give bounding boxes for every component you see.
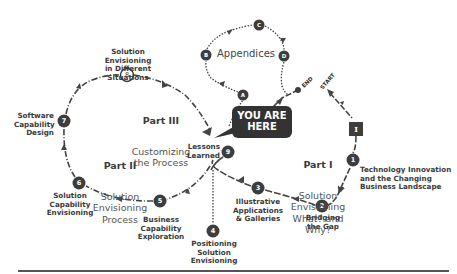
you-are-here-label: YOU ARE HERE [232, 110, 292, 132]
start-path [327, 89, 352, 118]
path-6-7 [64, 128, 75, 177]
svg-text:9: 9 [226, 148, 231, 156]
caption-node-6: Solution Capability Envisioning [46, 192, 94, 218]
svg-text:3: 3 [256, 184, 261, 192]
path-3-9 [212, 160, 251, 186]
node-3[interactable]: 3 [252, 182, 265, 195]
caption-node-1: Technology Innovation and the Changing B… [360, 166, 451, 192]
node-I[interactable]: I [349, 122, 363, 136]
caption-node-8: Solution Envisioning in Different Situat… [88, 48, 168, 83]
svg-text:5: 5 [158, 197, 163, 205]
svg-text:B: B [204, 52, 208, 58]
bottom-divider [18, 270, 449, 272]
svg-text:7: 7 [62, 117, 67, 125]
caption-node-9: Lessons Learned [184, 143, 220, 160]
node-7[interactable]: 7 [58, 115, 71, 128]
book-roadmap-diagram: I 1 2 3 4 5 6 7 8 9 A B C D [0, 0, 457, 274]
svg-text:C: C [257, 22, 261, 28]
node-A[interactable]: A [238, 90, 249, 101]
svg-text:I: I [354, 124, 358, 134]
node-D[interactable]: D [279, 51, 290, 62]
node-C[interactable]: C [254, 20, 265, 31]
caption-node-7: Software Capability Design [14, 112, 54, 138]
part-3-title: Part III [130, 115, 192, 126]
end-marker [295, 87, 301, 93]
part-1-block: Part I Solution Envisioning What? and Wh… [282, 140, 354, 255]
node-B[interactable]: B [201, 50, 212, 61]
node-6[interactable]: 6 [73, 177, 86, 190]
svg-text:6: 6 [77, 179, 82, 187]
caption-node-2: Bridging the Gap [298, 214, 348, 231]
svg-text:D: D [282, 53, 287, 59]
appendices-label: Appendices [214, 48, 278, 60]
caption-node-3: Illustrative Applications & Galleries [228, 198, 288, 224]
part-3-subtitle: Customizing the Process [130, 146, 192, 169]
svg-text:A: A [241, 92, 246, 98]
svg-text:4: 4 [211, 227, 216, 235]
node-4[interactable]: 4 [207, 225, 220, 238]
caption-node-5: Business Capability Exploration [134, 216, 188, 242]
caption-node-4: Positioning Solution Envisioning [173, 240, 255, 266]
part-3-block: Part III Customizing the Process [130, 96, 192, 188]
part-1-title: Part I [282, 159, 354, 170]
node-5[interactable]: 5 [154, 195, 167, 208]
node-9[interactable]: 9 [222, 146, 235, 159]
